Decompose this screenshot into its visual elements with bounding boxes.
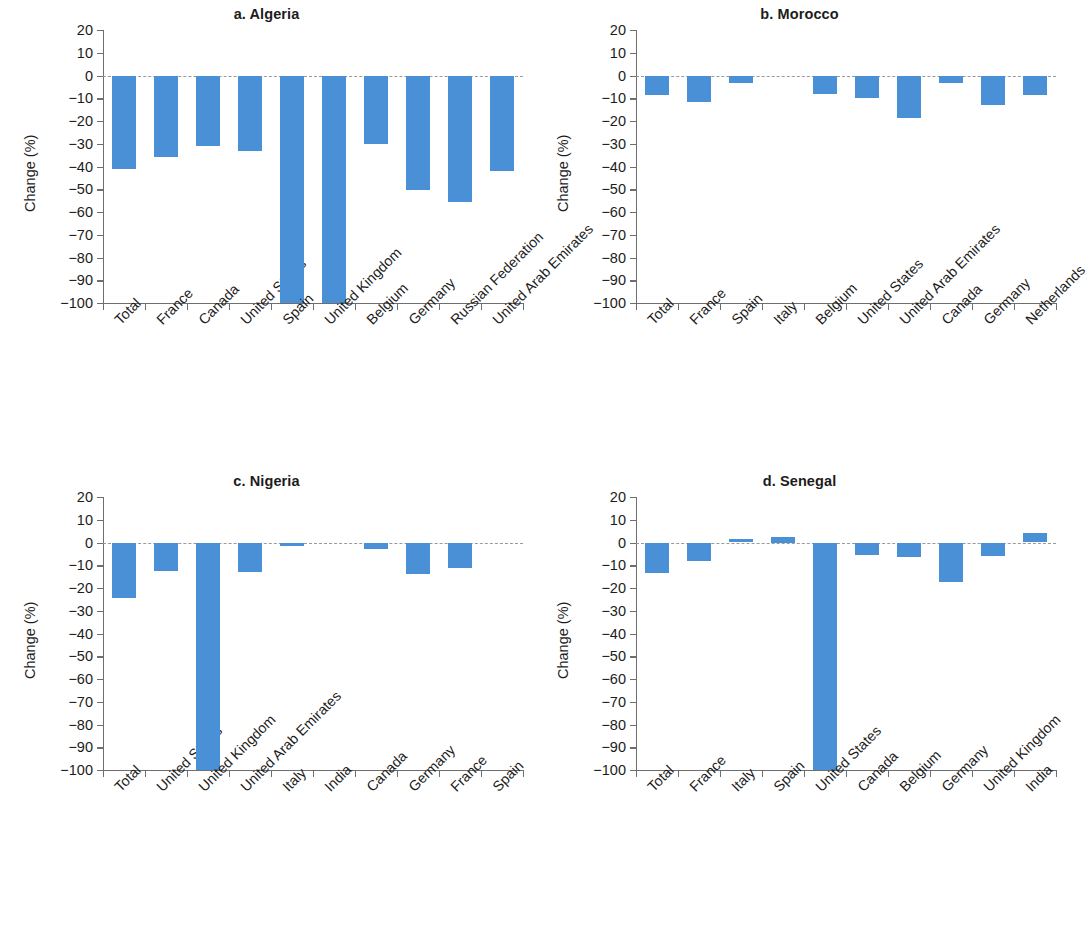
bar	[448, 76, 472, 202]
bar	[813, 543, 837, 771]
x-axis-tick-label: France	[154, 286, 196, 328]
y-axis-line	[103, 30, 104, 303]
bar	[813, 76, 837, 94]
y-axis-tick-label: −60	[570, 671, 626, 687]
y-axis-tick-label: −100	[570, 295, 626, 311]
chart-panel: c. NigeriaChange (%)20100−10−20−30−40−50…	[0, 467, 533, 934]
x-axis-tick	[355, 303, 356, 310]
bar	[448, 543, 472, 568]
y-axis-tick-label: −20	[570, 113, 626, 129]
x-axis-tick-label: France	[687, 753, 729, 795]
y-axis-tick	[630, 167, 636, 168]
y-axis-tick	[630, 280, 636, 281]
y-axis-label: Change (%)	[555, 134, 571, 211]
bar	[196, 543, 220, 771]
x-axis-tick-label: Spain	[771, 758, 807, 794]
y-axis-tick	[97, 702, 103, 703]
bar	[490, 76, 514, 172]
x-axis-tick-label: Netherlands	[1023, 262, 1088, 327]
y-axis-tick	[630, 634, 636, 635]
y-axis-line	[636, 497, 637, 770]
bar	[280, 543, 304, 546]
x-axis-tick-label: France	[448, 753, 490, 795]
y-axis-tick-label: −70	[37, 694, 93, 710]
x-axis-tick	[720, 770, 721, 777]
bar	[154, 76, 178, 158]
bar	[196, 76, 220, 147]
x-axis-tick	[1014, 770, 1015, 777]
x-axis-tick	[271, 770, 272, 777]
y-axis-tick-label: −40	[570, 159, 626, 175]
y-axis-tick-label: −100	[37, 295, 93, 311]
x-axis-tick	[678, 303, 679, 310]
x-axis-tick	[103, 303, 104, 310]
y-axis-tick-label: −90	[570, 272, 626, 288]
x-axis-tick-label: India	[1023, 762, 1055, 794]
x-axis-tick	[804, 770, 805, 777]
x-axis-tick	[762, 770, 763, 777]
x-axis-tick	[439, 303, 440, 310]
y-axis-tick-label: −60	[37, 204, 93, 220]
y-axis-tick-label: −50	[570, 181, 626, 197]
bar	[238, 76, 262, 151]
chart-panel: a. AlgeriaChange (%)20100−10−20−30−40−50…	[0, 0, 533, 467]
y-axis-tick	[630, 212, 636, 213]
bar	[645, 76, 669, 95]
x-axis-tick	[229, 303, 230, 310]
y-axis-tick-label: 20	[37, 489, 93, 505]
y-axis-tick-label: −40	[37, 159, 93, 175]
y-axis-tick	[97, 167, 103, 168]
y-axis-tick-label: 10	[37, 45, 93, 61]
y-axis-tick-label: −40	[37, 626, 93, 642]
x-axis-tick-label: India	[322, 762, 354, 794]
y-axis-tick	[630, 588, 636, 589]
y-axis-tick	[630, 611, 636, 612]
x-axis-tick	[888, 303, 889, 310]
y-axis-tick-label: −20	[570, 580, 626, 596]
y-axis-tick-label: 20	[37, 22, 93, 38]
x-axis-tick	[930, 770, 931, 777]
y-axis-tick	[97, 53, 103, 54]
y-axis-tick	[97, 656, 103, 657]
bar	[687, 76, 711, 102]
x-axis-tick-label: France	[687, 286, 729, 328]
y-axis-tick-label: 20	[570, 489, 626, 505]
bar	[406, 543, 430, 575]
y-axis-label: Change (%)	[22, 601, 38, 678]
y-axis-tick-label: 0	[570, 68, 626, 84]
y-axis-tick	[97, 235, 103, 236]
y-axis-tick-label: −70	[570, 694, 626, 710]
y-axis-tick	[630, 30, 636, 31]
x-axis-tick	[229, 770, 230, 777]
y-axis-tick-label: 10	[37, 512, 93, 528]
y-axis-tick	[630, 53, 636, 54]
y-axis-tick	[97, 725, 103, 726]
y-axis-tick-label: −80	[37, 250, 93, 266]
y-axis-tick-label: −80	[37, 717, 93, 733]
y-axis-tick-label: −20	[37, 580, 93, 596]
x-axis-tick-label: Total	[645, 763, 676, 794]
x-axis-tick-label: Total	[112, 296, 143, 327]
y-axis-tick	[630, 520, 636, 521]
y-axis-tick	[97, 189, 103, 190]
y-axis-tick	[97, 30, 103, 31]
y-axis-tick	[97, 634, 103, 635]
y-axis-tick	[97, 679, 103, 680]
y-axis-tick-label: −90	[570, 739, 626, 755]
y-axis-tick	[97, 747, 103, 748]
x-axis-tick	[103, 770, 104, 777]
y-axis-tick	[97, 212, 103, 213]
x-axis-tick	[846, 770, 847, 777]
bar	[981, 76, 1005, 106]
bar	[729, 76, 753, 84]
x-axis-tick	[187, 770, 188, 777]
y-axis-tick	[630, 258, 636, 259]
y-axis-tick	[97, 98, 103, 99]
y-axis-tick-label: −20	[37, 113, 93, 129]
x-axis-tick-label: Total	[645, 296, 676, 327]
y-axis-tick	[97, 611, 103, 612]
y-axis-label: Change (%)	[555, 601, 571, 678]
y-axis-tick	[630, 121, 636, 122]
x-axis-tick-label: Spain	[729, 291, 765, 327]
